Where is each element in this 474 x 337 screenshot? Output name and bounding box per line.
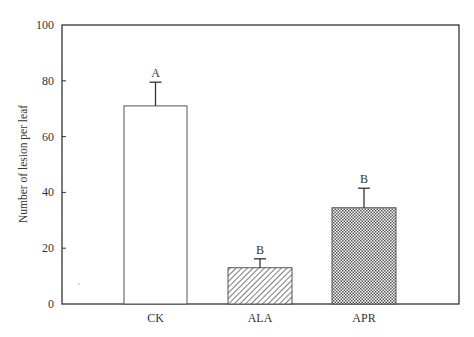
y-tick-label: 100 bbox=[36, 18, 54, 32]
significance-letter: A bbox=[151, 66, 160, 80]
significance-letter: B bbox=[256, 243, 264, 257]
bar-chart: 020406080100 ABB CKALAAPR Number of lesi… bbox=[0, 0, 474, 337]
bars: ABB bbox=[124, 66, 396, 304]
y-tick-label: 0 bbox=[48, 297, 54, 311]
x-tick-label: ALA bbox=[248, 311, 273, 325]
bar-apr: B bbox=[332, 172, 396, 304]
bar-rect bbox=[228, 268, 292, 304]
x-tick-label: APR bbox=[352, 311, 375, 325]
bar-rect bbox=[332, 208, 396, 304]
y-tick-label: 40 bbox=[42, 185, 54, 199]
significance-letter: B bbox=[360, 172, 368, 186]
y-tick-label: 80 bbox=[42, 74, 54, 88]
bar-rect bbox=[124, 106, 187, 304]
bar-ala: B bbox=[228, 243, 292, 304]
artifact-dot bbox=[78, 283, 80, 285]
y-tick-label: 60 bbox=[42, 130, 54, 144]
bar-ck: A bbox=[124, 66, 187, 304]
x-axis: CKALAAPR bbox=[147, 311, 376, 325]
y-tick-label: 20 bbox=[42, 241, 54, 255]
x-tick-label: CK bbox=[147, 311, 164, 325]
y-axis-label: Number of lesion per leaf bbox=[17, 105, 30, 223]
